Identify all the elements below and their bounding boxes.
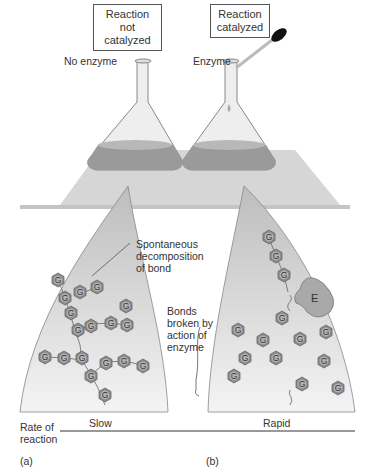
box-line: Reaction xyxy=(215,8,265,21)
panel-tag-a: (a) xyxy=(20,455,33,467)
callout-line: of bond xyxy=(136,262,204,274)
flask-label-no-enzyme: No enzyme xyxy=(64,55,117,67)
rate-axis-label: Rate of reaction xyxy=(20,421,57,445)
flask-enzyme xyxy=(183,59,276,170)
box-line: catalyzed xyxy=(215,21,265,34)
label-reaction-not-catalyzed: Reaction not catalyzed xyxy=(93,4,162,51)
axis-label-line: Rate of xyxy=(20,421,57,433)
callout-line: Spontaneous xyxy=(136,238,204,250)
label-reaction-catalyzed: Reaction catalyzed xyxy=(210,4,270,38)
box-line: catalyzed xyxy=(98,34,157,47)
flask-label-enzyme: Enzyme xyxy=(193,55,231,67)
callout-line: action of xyxy=(167,329,213,341)
rate-rapid: Rapid xyxy=(263,417,290,429)
rate-slow: Slow xyxy=(89,417,112,429)
diagram-canvas: G xyxy=(0,0,374,474)
panel-tag-b: (b) xyxy=(206,455,219,467)
callout-line: decomposition xyxy=(136,250,204,262)
callout-spontaneous-decomposition: Spontaneous decomposition of bond xyxy=(136,238,204,274)
enzyme-label: E xyxy=(311,292,318,304)
callout-line: broken by xyxy=(167,317,213,329)
flask-no-enzyme xyxy=(88,59,183,170)
callout-bonds-broken: Bonds broken by action of enzyme xyxy=(167,305,213,353)
callout-line: enzyme xyxy=(167,341,213,353)
callout-line: Bonds xyxy=(167,305,213,317)
axis-label-line: reaction xyxy=(20,433,57,445)
box-line: Reaction not xyxy=(98,8,157,34)
